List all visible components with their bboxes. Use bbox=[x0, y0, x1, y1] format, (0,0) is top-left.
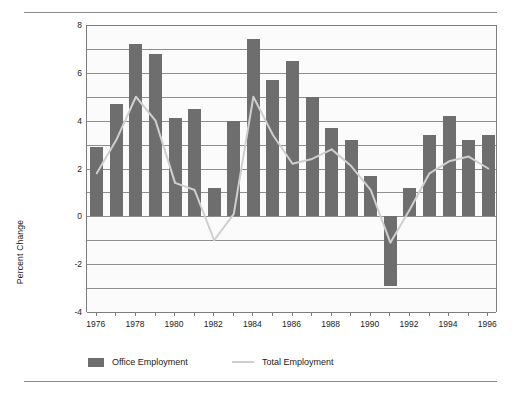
x-axis-tick bbox=[115, 312, 116, 316]
x-axis-tick bbox=[409, 312, 410, 316]
y-axis-title: Percent Change bbox=[15, 204, 25, 300]
x-axis-tick-label: 1980 bbox=[165, 319, 184, 329]
line-series-total-employment bbox=[87, 25, 498, 312]
x-axis-tick bbox=[252, 312, 253, 316]
legend-label-office-employment: Office Employment bbox=[112, 357, 188, 367]
x-axis-tick bbox=[194, 312, 195, 316]
x-axis-tick bbox=[272, 312, 273, 316]
x-axis-tick bbox=[292, 312, 293, 316]
x-axis-tick bbox=[370, 312, 371, 316]
plot-area bbox=[86, 25, 497, 312]
x-axis-tick bbox=[213, 312, 214, 316]
y-axis-tick-label: 0 bbox=[56, 212, 82, 221]
x-axis-tick bbox=[135, 312, 136, 316]
x-axis-tick-label: 1992 bbox=[399, 319, 418, 329]
bottom-divider-rule bbox=[24, 381, 497, 382]
chart-legend: Office Employment Total Employment bbox=[88, 355, 333, 369]
legend-item-total-employment: Total Employment bbox=[232, 357, 334, 367]
legend-item-office-employment: Office Employment bbox=[88, 357, 188, 367]
x-axis-tick-label: 1976 bbox=[86, 319, 105, 329]
x-axis-tick-label: 1990 bbox=[360, 319, 379, 329]
x-axis: 1976197819801982198419861988199019921994… bbox=[86, 312, 497, 334]
x-axis-tick bbox=[429, 312, 430, 316]
x-axis-tick-label: 1996 bbox=[478, 319, 497, 329]
chart-page: Percent Change 86420-2-4 197619781980198… bbox=[0, 0, 521, 399]
x-axis-tick-label: 1986 bbox=[282, 319, 301, 329]
legend-bar-swatch-icon bbox=[88, 358, 104, 367]
x-axis-tick bbox=[448, 312, 449, 316]
y-axis-tick-label: 6 bbox=[56, 69, 82, 78]
y-axis-tick-label: 2 bbox=[56, 165, 82, 174]
x-axis-tick bbox=[389, 312, 390, 316]
legend-line-swatch-icon bbox=[232, 361, 254, 363]
y-axis-tick-labels: 86420-2-4 bbox=[52, 25, 82, 312]
x-axis-tick-label: 1978 bbox=[125, 319, 144, 329]
top-divider-rule bbox=[24, 12, 497, 13]
y-axis-tick-label: 4 bbox=[56, 117, 82, 126]
x-axis-tick bbox=[155, 312, 156, 316]
x-axis-tick bbox=[350, 312, 351, 316]
x-axis-tick bbox=[468, 312, 469, 316]
x-axis-tick bbox=[96, 312, 97, 316]
x-axis-tick-label: 1984 bbox=[243, 319, 262, 329]
x-axis-tick bbox=[487, 312, 488, 316]
x-axis-tick-label: 1982 bbox=[204, 319, 223, 329]
x-axis-tick bbox=[311, 312, 312, 316]
y-axis-tick-label: 8 bbox=[56, 21, 82, 30]
legend-label-total-employment: Total Employment bbox=[262, 357, 334, 367]
y-axis-tick-label: -4 bbox=[56, 308, 82, 317]
x-axis-tick bbox=[233, 312, 234, 316]
x-axis-tick-label: 1994 bbox=[439, 319, 458, 329]
x-axis-tick bbox=[174, 312, 175, 316]
x-axis-tick bbox=[331, 312, 332, 316]
y-axis-tick-label: -2 bbox=[56, 260, 82, 269]
x-axis-tick-label: 1988 bbox=[321, 319, 340, 329]
